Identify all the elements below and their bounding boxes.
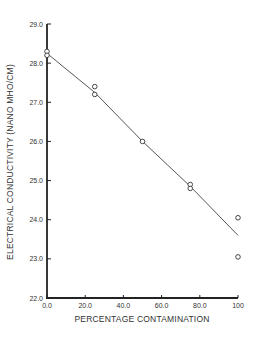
y-tick-label: 22.0: [29, 295, 43, 302]
x-tick-label: 80.0: [193, 302, 207, 309]
data-point-marker: [236, 215, 241, 220]
data-point-marker: [140, 139, 145, 144]
y-tick-label: 28.0: [29, 60, 43, 67]
scatter-chart: 0.020.040.060.080.0100 22.023.024.025.02…: [0, 0, 256, 337]
y-tick-label: 25.0: [29, 177, 43, 184]
fit-line-path: [47, 53, 238, 235]
x-tick-label: 40.0: [117, 302, 131, 309]
data-point-marker: [92, 84, 97, 89]
fit-line: [47, 53, 238, 235]
axes: [46, 24, 238, 299]
x-tick-label: 20.0: [78, 302, 92, 309]
data-points: [45, 49, 241, 259]
y-tick-label: 23.0: [29, 255, 43, 262]
data-point-marker: [92, 92, 97, 97]
data-point-marker: [236, 255, 241, 260]
x-tick-label: 60.0: [155, 302, 169, 309]
y-axis-title: ELECTRICAL CONDUCTIVITY (NANO MHO/CM): [5, 64, 15, 260]
y-tick-label: 24.0: [29, 216, 43, 223]
data-point-marker: [188, 186, 193, 191]
x-tick-label: 100: [232, 302, 244, 309]
x-axis-title: PERCENTAGE CONTAMINATION: [74, 314, 209, 324]
x-tick-label: 0.0: [42, 302, 52, 309]
y-tick-label: 27.0: [29, 99, 43, 106]
data-point-marker: [45, 53, 50, 58]
y-tick-label: 26.0: [29, 138, 43, 145]
y-tick-label: 29.0: [29, 21, 43, 28]
